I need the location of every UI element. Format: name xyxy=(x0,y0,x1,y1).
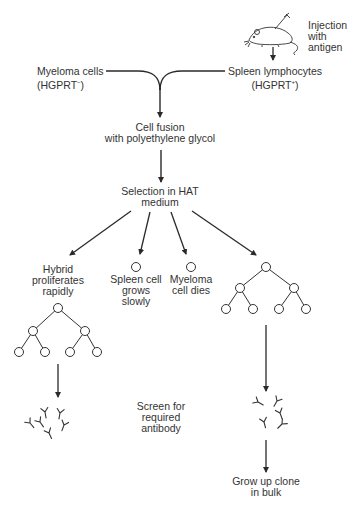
screen-antibody-label: Screen for required antibody xyxy=(130,401,192,434)
arrow-to-hybrid xyxy=(70,211,131,255)
right-antibodies-icon xyxy=(253,396,288,431)
mouse-with-syringe-icon xyxy=(244,13,298,55)
grow-clone-label: Grow up clone in bulk xyxy=(226,476,306,498)
myeloma-cells-label: Myeloma cells (HGPRT−) xyxy=(37,66,104,91)
injection-label: Injection with antigen xyxy=(308,20,347,53)
spleen-cell-label: Spleen cell grows slowly xyxy=(106,274,166,307)
spleen-lymphocytes-label: Spleen lymphocytes (HGPRT+) xyxy=(227,66,323,91)
connector-myeloma xyxy=(106,71,160,90)
right-cell-division-tree-icon xyxy=(222,263,311,314)
left-cell-division-tree-icon xyxy=(15,304,102,357)
spleen-cell-circle-icon xyxy=(132,263,141,272)
cell-fusion-label: Cell fusion with polyethylene glycol xyxy=(100,122,220,144)
connector-spleen xyxy=(160,71,225,90)
left-antibodies-icon xyxy=(25,407,69,439)
hybrid-label: Hybrid proliferates rapidly xyxy=(28,264,88,297)
selection-hat-label: Selection in HAT medium xyxy=(110,186,210,208)
myeloma-dies-label: Myeloma cell dies xyxy=(166,274,216,296)
arrow-to-spleen-cell xyxy=(140,212,150,254)
myeloma-cell-circle-icon xyxy=(187,263,196,272)
arrow-to-myeloma-dies xyxy=(171,212,186,254)
arrow-to-clone-tree xyxy=(192,211,256,255)
